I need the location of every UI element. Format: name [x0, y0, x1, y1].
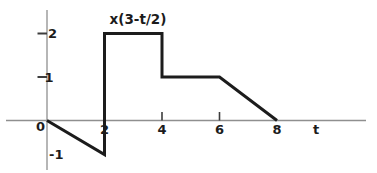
- function-title-label: x(3-t/2): [100, 11, 176, 27]
- y-tick-label--1: -1: [49, 147, 63, 162]
- signal-plot-figure: 0246821-1t x(3-t/2): [0, 0, 377, 173]
- x-tick-label-0: 0: [36, 119, 45, 134]
- x-tick-label-6: 6: [215, 122, 224, 137]
- x-axis-name-label: t: [313, 122, 319, 137]
- y-tick-label-1: 1: [45, 70, 54, 85]
- y-tick-label-2: 2: [48, 26, 57, 41]
- x-tick-label-4: 4: [157, 122, 166, 137]
- x-tick-label-2: 2: [100, 122, 109, 137]
- plot-canvas: 0246821-1t: [0, 0, 377, 173]
- x-tick-label-8: 8: [272, 122, 281, 137]
